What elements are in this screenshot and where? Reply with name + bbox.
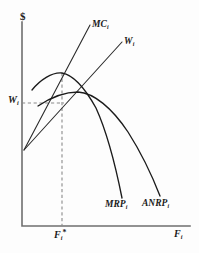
x-axis-label: Fi xyxy=(174,229,183,240)
w-axis-label-base: W xyxy=(8,94,17,105)
mc-label-base: MC xyxy=(92,19,107,29)
w-axis-label-subscript: i xyxy=(17,99,19,106)
mrp-label-subscript: i xyxy=(126,204,128,210)
w-line-label-subscript: i xyxy=(133,41,135,47)
wage-axis-label: Wi xyxy=(8,95,19,106)
anrp-curve-label: ANRPi xyxy=(142,199,169,210)
w-line-label-base: W xyxy=(124,36,132,46)
fi-label-base: F xyxy=(174,228,181,239)
anrp-label-subscript: i xyxy=(168,203,170,209)
mrp-label-base: MRP xyxy=(105,199,126,209)
mc-curve-label: MCi xyxy=(92,20,109,31)
y-axis-label: $ xyxy=(20,11,26,22)
optimal-quantity-label: Fi* xyxy=(54,229,66,241)
w-curve-label: Wi xyxy=(124,37,134,48)
mc-label-subscript: i xyxy=(107,24,109,30)
fstar-label-base: F xyxy=(54,229,61,240)
fstar-label-asterisk: * xyxy=(62,228,66,237)
anrp-curve xyxy=(38,92,160,196)
economics-diagram-figure: $ MCi Wi Wi MRPi ANRPi Fi* Fi xyxy=(0,0,199,253)
diagram-canvas xyxy=(0,0,199,253)
mrp-curve-label: MRPi xyxy=(105,200,127,211)
anrp-label-base: ANRP xyxy=(142,198,167,208)
fi-label-subscript: i xyxy=(181,233,183,240)
